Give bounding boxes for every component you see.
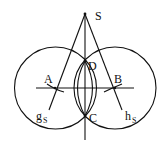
label-g-subscript: S <box>43 116 47 125</box>
label-a: A <box>44 72 53 86</box>
label-b: B <box>114 72 122 86</box>
point-s <box>84 13 87 16</box>
geometry-diagram: S D A B C g S h S <box>0 0 163 148</box>
point-b <box>114 87 116 89</box>
point-d <box>84 60 87 63</box>
label-h-subscript: S <box>132 116 136 125</box>
label-g: g <box>36 109 42 123</box>
construction-figure: S D A B C g S h S <box>0 0 163 148</box>
point-a <box>54 87 56 89</box>
point-c <box>84 115 87 118</box>
label-d: D <box>88 59 97 73</box>
line-gs <box>49 14 85 110</box>
label-h: h <box>125 109 131 123</box>
label-c: C <box>89 111 97 125</box>
label-s: S <box>95 9 102 23</box>
